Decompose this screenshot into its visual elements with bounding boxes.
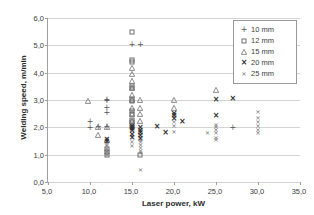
x-axis-tick-label: 20,0 xyxy=(153,187,193,196)
data-point xyxy=(129,142,134,150)
data-point xyxy=(130,84,135,89)
data-point xyxy=(103,97,110,105)
data-point xyxy=(138,149,143,157)
data-point xyxy=(137,118,143,124)
data-point xyxy=(129,138,134,146)
x-axis-tick xyxy=(174,182,175,185)
data-point xyxy=(129,78,135,84)
legend-label: 15 mm xyxy=(251,47,274,57)
data-point xyxy=(104,147,109,152)
data-point xyxy=(103,136,110,144)
y-axis-tick-label: 3,0 xyxy=(4,96,44,105)
data-point xyxy=(213,112,220,120)
y-axis-tick-label: 4,0 xyxy=(4,68,44,77)
data-point xyxy=(104,137,110,143)
data-point xyxy=(229,95,236,103)
data-point xyxy=(104,140,109,148)
y-axis-tick-label: 5,0 xyxy=(4,41,44,50)
data-point xyxy=(171,105,177,111)
data-point xyxy=(130,30,135,35)
legend-marker-icon xyxy=(238,47,251,57)
x-axis-tick-label: 25,0 xyxy=(195,187,235,196)
data-point xyxy=(137,135,144,143)
x-axis-tick xyxy=(132,182,133,185)
data-point xyxy=(255,114,260,122)
x-axis-tick-labels: 5,010,015,020,025,030,035,0 xyxy=(47,187,300,198)
y-axis-tick xyxy=(45,100,48,101)
data-point xyxy=(129,122,136,130)
x-axis-tick-label: 5,0 xyxy=(27,187,67,196)
data-point xyxy=(205,129,210,137)
y-axis-tick-label: 1,0 xyxy=(4,150,44,159)
data-point xyxy=(130,59,135,64)
data-point xyxy=(171,118,176,126)
data-point xyxy=(171,122,176,130)
data-point xyxy=(130,117,135,122)
data-point xyxy=(130,119,135,124)
y-axis-tick xyxy=(45,18,48,19)
data-point xyxy=(213,129,218,137)
x-axis-tick-label: 35,0 xyxy=(279,187,314,196)
legend-marker-icon xyxy=(238,58,251,68)
data-point xyxy=(104,142,109,150)
data-point xyxy=(171,115,178,123)
data-point xyxy=(171,110,178,118)
data-point xyxy=(129,131,136,139)
data-point xyxy=(129,105,135,111)
data-point xyxy=(138,147,143,155)
data-point xyxy=(162,129,169,137)
data-point xyxy=(171,128,176,136)
data-point xyxy=(137,111,143,117)
x-axis-tick-label: 30,0 xyxy=(237,187,277,196)
x-axis-tick-label: 15,0 xyxy=(111,187,151,196)
x-axis-title: Laser power, kW xyxy=(47,199,300,208)
x-axis-tick xyxy=(300,182,301,185)
legend-item-25-mm[interactable]: 25 mm xyxy=(238,69,293,79)
data-point xyxy=(129,85,135,91)
data-point xyxy=(87,118,94,126)
data-point xyxy=(130,57,135,62)
legend-marker-icon xyxy=(238,69,251,79)
data-point xyxy=(129,118,135,124)
y-axis-tick xyxy=(45,45,48,46)
data-point xyxy=(129,134,136,142)
data-point xyxy=(129,65,135,71)
data-point xyxy=(137,129,144,137)
data-point xyxy=(255,118,260,126)
data-point xyxy=(95,132,101,138)
data-point xyxy=(255,108,260,116)
data-point xyxy=(137,132,144,140)
data-point xyxy=(138,144,143,152)
data-point xyxy=(255,129,260,137)
legend-label: 10 mm xyxy=(251,25,274,35)
gridline-y xyxy=(48,100,300,101)
legend-label: 20 mm xyxy=(251,58,274,68)
y-axis-tick-label: 2,0 xyxy=(4,123,44,132)
legend-item-15-mm[interactable]: 15 mm xyxy=(238,47,293,57)
data-point xyxy=(103,104,110,112)
legend-item-10-mm[interactable]: 10 mm xyxy=(238,25,293,35)
data-point xyxy=(171,112,178,120)
legend-item-12-mm[interactable]: 12 mm xyxy=(238,36,293,46)
legend-label: 25 mm xyxy=(251,69,274,79)
data-point xyxy=(213,87,219,93)
data-point xyxy=(130,85,135,90)
data-point xyxy=(130,108,135,113)
data-point xyxy=(179,118,186,126)
data-point xyxy=(130,111,135,116)
data-point xyxy=(129,111,135,117)
chart-legend: 10 mm12 mm15 mm20 mm25 mm xyxy=(233,20,297,84)
data-point xyxy=(137,105,143,111)
legend-item-20-mm[interactable]: 20 mm xyxy=(238,58,293,68)
data-point xyxy=(138,136,143,144)
data-point xyxy=(129,92,135,98)
data-point xyxy=(138,166,143,174)
data-point xyxy=(138,141,143,149)
data-point xyxy=(213,134,218,142)
legend-marker-icon xyxy=(238,25,251,35)
x-axis-tick xyxy=(258,182,259,185)
gridline-y xyxy=(48,155,300,156)
data-point xyxy=(103,109,110,117)
y-axis-tick xyxy=(45,155,48,156)
y-axis-tick xyxy=(45,127,48,128)
